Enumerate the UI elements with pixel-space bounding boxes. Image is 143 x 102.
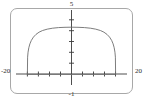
x-min-label: -20	[1, 68, 10, 75]
y-min-label: -1	[0, 91, 143, 98]
y-max-label: 5	[0, 1, 143, 8]
x-max-label: 20	[135, 68, 142, 75]
chart-figure: 5 -1 -20 20	[0, 0, 143, 102]
plot-canvas	[0, 0, 143, 102]
